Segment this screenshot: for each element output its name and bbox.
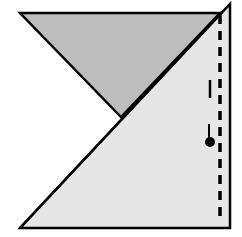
triangles-diagram	[0, 0, 242, 237]
dot-marker	[205, 137, 215, 147]
